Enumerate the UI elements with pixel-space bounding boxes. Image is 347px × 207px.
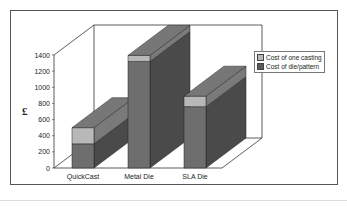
bar-segment — [184, 107, 206, 168]
bar-segment — [128, 55, 150, 61]
divider — [0, 200, 347, 201]
legend-label-casting: Cost of one casting — [266, 53, 322, 62]
y-tick-label: 1400 — [34, 52, 50, 59]
y-tick-label: 1000 — [34, 84, 50, 91]
y-tick-label: 200 — [38, 148, 50, 155]
y-tick-label: 1200 — [34, 68, 50, 75]
legend-swatch-casting — [257, 54, 264, 61]
y-tick-label: 400 — [38, 132, 50, 139]
legend-item-die: Cost of die/pattern — [257, 62, 322, 71]
bar-segment — [184, 96, 206, 106]
chart-plot-area: 0200400600800100012001400 QuickCastMetal… — [0, 0, 347, 207]
bar-segment — [72, 128, 94, 144]
x-category-label: Metal Die — [124, 173, 154, 180]
legend: Cost of one casting Cost of die/pattern — [254, 51, 325, 73]
bar-segment — [128, 61, 150, 168]
x-axis: QuickCastMetal DieSLA Die — [67, 173, 208, 181]
legend-item-casting: Cost of one casting — [257, 53, 322, 62]
y-tick-label: 800 — [38, 100, 50, 107]
x-category-label: SLA Die — [182, 173, 207, 180]
y-axis: 0200400600800100012001400 — [34, 52, 54, 172]
y-tick-label: 0 — [46, 165, 50, 172]
bars — [72, 25, 246, 168]
y-axis-label: £ — [22, 105, 28, 117]
bar-segment — [72, 144, 94, 168]
legend-label-die: Cost of die/pattern — [266, 62, 319, 71]
y-tick-label: 600 — [38, 116, 50, 123]
legend-swatch-die — [257, 63, 264, 70]
x-category-label: QuickCast — [67, 173, 99, 181]
